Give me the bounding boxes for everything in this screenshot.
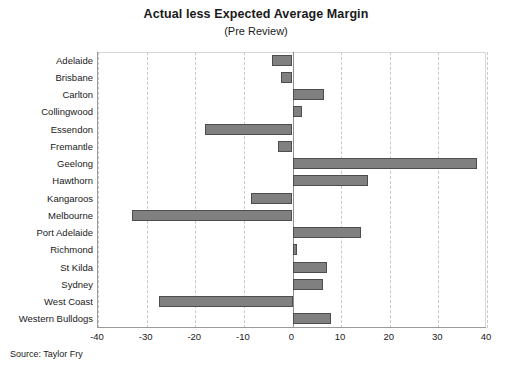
category-label: Essendon — [0, 125, 93, 135]
bar — [293, 89, 324, 100]
category-label: Melbourne — [0, 211, 93, 221]
chart-title: Actual less Expected Average Margin — [0, 7, 512, 21]
category-label: West Coast — [0, 297, 93, 307]
bar — [205, 124, 293, 135]
bar — [293, 106, 303, 117]
bar-row — [98, 207, 485, 224]
bar-row — [98, 294, 485, 311]
bar-row — [98, 138, 485, 155]
bar — [251, 193, 292, 204]
bar — [293, 313, 332, 324]
category-label: Collingwood — [0, 107, 93, 117]
category-label: Adelaide — [0, 56, 93, 66]
category-label: Brisbane — [0, 73, 93, 83]
category-label: Sydney — [0, 280, 93, 290]
category-label: St Kilda — [0, 263, 93, 273]
bar — [293, 175, 368, 186]
category-label: Western Bulldogs — [0, 314, 93, 324]
plot-area — [97, 52, 486, 328]
x-tick-label: -40 — [77, 331, 117, 343]
x-tick-label: -20 — [174, 331, 214, 343]
x-tick-label: 20 — [369, 331, 409, 343]
x-tick-label: 10 — [320, 331, 360, 343]
category-label: Fremantle — [0, 142, 93, 152]
bar-row — [98, 121, 485, 138]
bar — [293, 158, 478, 169]
category-label: Carlton — [0, 90, 93, 100]
category-label: Geelong — [0, 159, 93, 169]
x-tick-label: 0 — [272, 331, 312, 343]
bar — [278, 141, 293, 152]
bar — [293, 244, 298, 255]
bar-row — [98, 52, 485, 69]
x-tick-label: 40 — [466, 331, 506, 343]
bar-row — [98, 311, 485, 328]
x-tick-label: 30 — [417, 331, 457, 343]
bar-row — [98, 276, 485, 293]
source-note: Source: Taylor Fry — [10, 349, 83, 360]
bar-row — [98, 259, 485, 276]
bar — [159, 296, 293, 307]
bar-row — [98, 156, 485, 173]
category-label: Richmond — [0, 245, 93, 255]
x-axis-line — [97, 327, 486, 328]
category-label: Hawthorn — [0, 176, 93, 186]
y-axis-category-labels: AdelaideBrisbaneCarltonCollingwoodEssend… — [0, 52, 93, 328]
category-label: Port Adelaide — [0, 228, 93, 238]
bar — [293, 227, 361, 238]
bar — [281, 72, 292, 83]
bar — [272, 55, 293, 66]
bar — [132, 210, 292, 221]
bar — [293, 279, 324, 290]
bar-series — [98, 52, 485, 328]
category-label: Kangaroos — [0, 194, 93, 204]
x-axis-tick-labels: -40-30-20-10010203040 — [0, 331, 512, 347]
x-tick-label: -30 — [126, 331, 166, 343]
bar-chart: Actual less Expected Average Margin (Pre… — [0, 0, 512, 369]
bar-row — [98, 190, 485, 207]
chart-subtitle: (Pre Review) — [0, 25, 512, 37]
bar-row — [98, 242, 485, 259]
bar-row — [98, 87, 485, 104]
bar-row — [98, 104, 485, 121]
bar — [293, 262, 327, 273]
x-tick-label: -10 — [223, 331, 263, 343]
gridline-40 — [487, 52, 488, 328]
bar-row — [98, 69, 485, 86]
bar-row — [98, 225, 485, 242]
bar-row — [98, 173, 485, 190]
